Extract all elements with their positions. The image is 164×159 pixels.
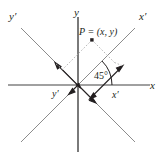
yprime-lower-arrow <box>69 85 79 95</box>
figure-canvas <box>0 0 164 159</box>
point-label-p: P = (x, y) <box>79 27 117 37</box>
axis-label-y-prime: y′ <box>9 11 16 22</box>
segment-label-x-prime: x′ <box>112 90 119 100</box>
angle-label-45: 45° <box>94 71 108 81</box>
point-p-marker <box>90 38 93 41</box>
axis-label-y: y <box>74 7 79 18</box>
segment-label-y-prime: y′ <box>52 89 59 99</box>
rotated-axes-figure: y x y′ x′ P = (x, y) 45° x′ y′ <box>0 0 164 159</box>
axis-label-x-prime: x′ <box>139 11 146 22</box>
xprime-guide-foot <box>115 63 124 67</box>
axis-label-x: x <box>150 80 155 91</box>
